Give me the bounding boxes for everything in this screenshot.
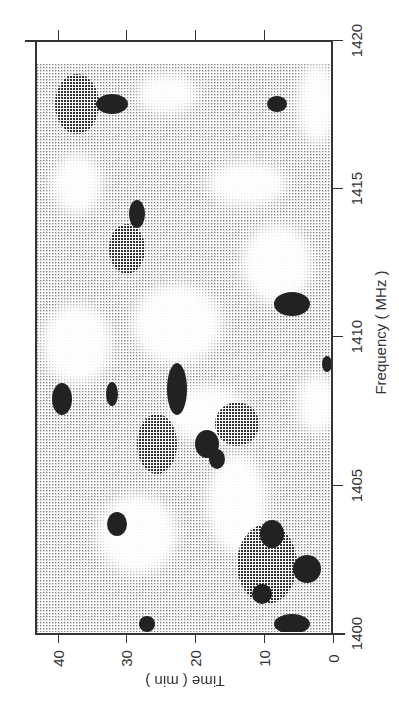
time-tick-label: 10: [256, 644, 273, 674]
time-tick: [195, 633, 196, 643]
time-tick: [333, 633, 334, 643]
top-tick: [195, 30, 196, 40]
time-tick-label: 40: [50, 644, 67, 674]
top-axis-line: [25, 40, 333, 42]
frequency-tick-label: 1410: [348, 317, 365, 357]
time-tick: [264, 633, 265, 643]
time-tick-label: 30: [118, 644, 135, 674]
frequency-tick-label: 1420: [348, 21, 365, 61]
frequency-tick: [333, 633, 343, 634]
time-axis-line: [35, 633, 345, 635]
frequency-axis-title: Frequency ( MHz ): [372, 263, 389, 403]
top-tick: [126, 30, 127, 40]
frequency-tick-label: 1405: [348, 466, 365, 506]
frequency-tick: [333, 40, 343, 41]
time-tick: [58, 633, 59, 643]
top-tick: [58, 30, 59, 40]
time-tick: [126, 633, 127, 643]
top-tick: [264, 30, 265, 40]
frequency-tick: [333, 485, 343, 486]
heatmap-plot: [37, 64, 331, 632]
time-tick-label: 0: [325, 644, 342, 674]
frequency-tick: [333, 336, 343, 337]
time-axis-title: Time ( min ): [130, 673, 240, 690]
frequency-tick-label: 1400: [348, 614, 365, 654]
time-tick-label: 20: [187, 644, 204, 674]
frequency-tick-label: 1415: [348, 169, 365, 209]
frequency-tick: [333, 188, 343, 189]
